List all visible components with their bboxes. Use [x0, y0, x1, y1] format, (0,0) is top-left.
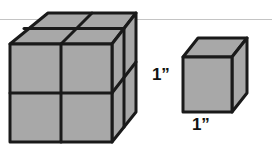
large-block [10, 13, 136, 142]
geometry-figure [0, 0, 272, 153]
unit-cube [183, 38, 247, 112]
unit-cube-front-face [183, 57, 232, 112]
unit-cube-height-label: 1” [152, 66, 170, 83]
unit-cube-width-label: 1” [192, 116, 210, 133]
figure-canvas: 1” 1” [0, 0, 272, 153]
